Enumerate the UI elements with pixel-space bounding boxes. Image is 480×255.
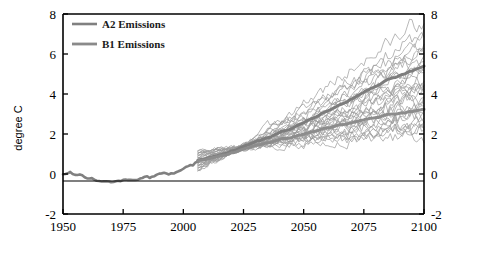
y-tick-label: 8 — [50, 7, 57, 22]
emissions-temperature-line-chart: -202468 -202468 195019752000202520502075… — [0, 0, 480, 255]
x-tick-label: 2025 — [231, 219, 257, 234]
y-tick-label: 4 — [50, 87, 57, 102]
y-tick-label: 2 — [50, 127, 57, 142]
y-tick-label: 0 — [50, 167, 57, 182]
y-tick-label-right: 0 — [431, 167, 438, 182]
x-tick-label: 1975 — [110, 219, 136, 234]
x-tick-label: 2100 — [411, 219, 437, 234]
x-tick-label: 2050 — [291, 219, 317, 234]
y-tick-label-right: 2 — [431, 127, 438, 142]
x-tick-label: 1950 — [50, 219, 76, 234]
y-axis-title: degree C — [12, 105, 24, 150]
chart-figure: -202468 -202468 195019752000202520502075… — [0, 0, 480, 255]
y-tick-label-right: 6 — [431, 47, 438, 62]
y-tick-label: 6 — [50, 47, 57, 62]
x-tick-label: 2000 — [170, 219, 196, 234]
legend-label-b1: B1 Emissions — [102, 38, 165, 50]
y-tick-label-right: 8 — [431, 7, 438, 22]
legend-label-a2: A2 Emissions — [102, 18, 166, 30]
y-tick-label-right: 4 — [431, 87, 438, 102]
x-tick-label: 2075 — [351, 219, 377, 234]
